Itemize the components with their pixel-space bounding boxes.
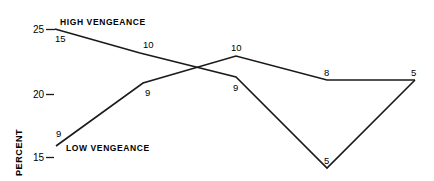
point-label-high-3: 9 — [233, 82, 238, 93]
line-chart: PERCENT 25 20 15 HIGH VENGEANCE LOW VENG… — [0, 0, 434, 181]
point-label-high-5: 5 — [411, 67, 416, 78]
series-label-low-vengeance: LOW VENGEANCE — [66, 143, 150, 153]
series-label-high-vengeance: HIGH VENGEANCE — [60, 17, 146, 27]
y-tick-25: 25 — [33, 24, 45, 35]
point-label-high-4: 5 — [324, 155, 329, 166]
point-label-high-2: 10 — [143, 39, 154, 50]
y-tick-20: 20 — [33, 89, 45, 100]
series-line-low-vengeance — [56, 56, 415, 146]
point-label-low-3: 10 — [231, 42, 242, 53]
point-label-low-1: 9 — [56, 128, 61, 139]
y-axis-label: PERCENT — [14, 129, 24, 176]
point-label-low-2: 9 — [145, 87, 150, 98]
y-tick-15: 15 — [33, 152, 45, 163]
point-label-low-4: 8 — [324, 67, 329, 78]
point-label-high-1: 15 — [55, 33, 66, 44]
